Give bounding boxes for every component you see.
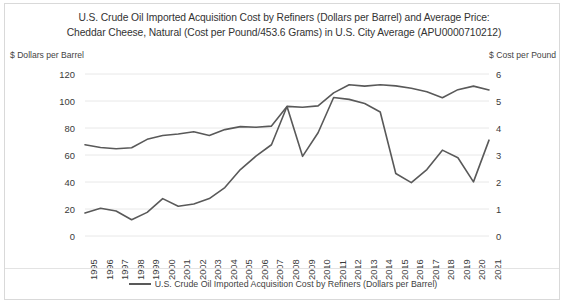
y-axis-right-caption: $ Cost per Pound bbox=[489, 50, 556, 60]
y-axis-right-tick: 6 bbox=[496, 69, 526, 80]
chart-title: U.S. Crude Oil Imported Acquisition Cost… bbox=[28, 10, 540, 40]
series-line-1 bbox=[85, 97, 489, 219]
plot-area bbox=[85, 74, 489, 236]
chart-title-line-1: U.S. Crude Oil Imported Acquisition Cost… bbox=[28, 10, 540, 25]
y-axis-right-tick: 5 bbox=[496, 96, 526, 107]
y-axis-left-tick: 120 bbox=[45, 69, 75, 80]
legend-item-label: U.S. Crude Oil Imported Acquisition Cost… bbox=[155, 279, 438, 289]
y-axis-left-tick: 60 bbox=[45, 150, 75, 161]
chart-title-line-2: Cheddar Cheese, Natural (Cost per Pound/… bbox=[28, 25, 540, 40]
plot-svg bbox=[85, 74, 489, 236]
y-axis-right-tick: 0 bbox=[496, 231, 526, 242]
y-axis-right-tick: 3 bbox=[496, 150, 526, 161]
y-axis-right-tick: 1 bbox=[496, 204, 526, 215]
legend-item: U.S. Crude Oil Imported Acquisition Cost… bbox=[129, 279, 438, 289]
y-axis-left-tick: 80 bbox=[45, 123, 75, 134]
y-axis-left-tick: 20 bbox=[45, 204, 75, 215]
y-axis-left-caption: $ Dollars per Barrel bbox=[10, 50, 84, 60]
y-axis-left-tick: 100 bbox=[45, 96, 75, 107]
legend-line-swatch bbox=[129, 283, 151, 285]
series-line-2 bbox=[85, 85, 489, 149]
y-axis-right-tick: 4 bbox=[496, 123, 526, 134]
gridlines bbox=[85, 74, 489, 236]
y-axis-right-tick: 2 bbox=[496, 177, 526, 188]
y-axis-left-tick: 0 bbox=[45, 231, 75, 242]
chart-container: U.S. Crude Oil Imported Acquisition Cost… bbox=[0, 0, 566, 305]
chart-legend: U.S. Crude Oil Imported Acquisition Cost… bbox=[0, 277, 566, 289]
series-lines bbox=[85, 85, 489, 220]
y-axis-left-tick: 40 bbox=[45, 177, 75, 188]
legend-divider bbox=[5, 268, 559, 269]
